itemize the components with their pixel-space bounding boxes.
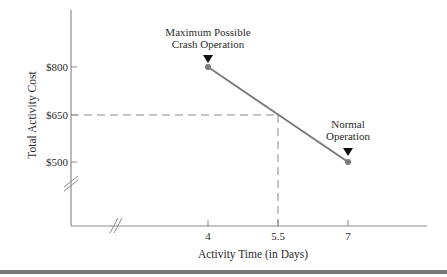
crash-point: [205, 64, 211, 70]
y-tick-label-650: $650: [46, 109, 69, 121]
x-tick-label-4: 4: [205, 230, 211, 242]
normal-annotation-line-2: Operation: [326, 130, 370, 142]
normal-point: [345, 159, 351, 165]
x-tick-label-7: 7: [345, 230, 351, 242]
y-tick-label-800: $800: [46, 61, 69, 73]
crash-annotation-line-1: Maximum Possible: [165, 26, 250, 38]
crash-marker-icon: [203, 55, 213, 63]
normal-marker-icon: [343, 148, 353, 156]
chart: $800 $650 $500 4 5.5 7 Activity Time (in…: [0, 0, 447, 277]
y-tick-label-500: $500: [46, 156, 69, 168]
crash-annotation-line-2: Crash Operation: [172, 38, 245, 50]
x-tick-label-5-5: 5.5: [271, 230, 285, 242]
y-axis-title: Total Activity Cost: [26, 71, 39, 159]
normal-annotation-line-1: Normal: [331, 118, 365, 130]
bottom-rule: [0, 270, 447, 274]
x-axis-title: Activity Time (in Days): [198, 248, 308, 261]
